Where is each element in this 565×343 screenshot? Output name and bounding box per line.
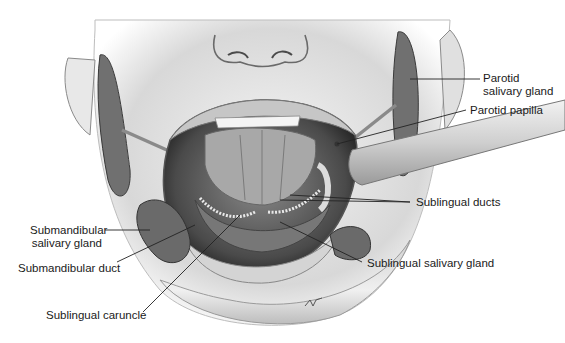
label-parotid-line2: salivary gland <box>483 85 553 98</box>
label-sublingual-ducts: Sublingual ducts <box>416 196 500 209</box>
label-parotid-papilla: Parotid papilla <box>470 104 543 117</box>
anatomy-illustration <box>0 0 565 343</box>
label-parotid-salivary-gland: Parotid salivary gland <box>483 72 553 98</box>
label-sublingual-salivary-gland: Sublingual salivary gland <box>367 257 494 270</box>
label-submandibular-duct: Submandibular duct <box>18 262 120 275</box>
label-submandibular-salivary-gland: Submandibular salivary gland <box>30 224 102 250</box>
label-submandibular-line2: salivary gland <box>30 237 102 250</box>
label-submandibular-line1: Submandibular <box>30 224 102 237</box>
right-ear <box>440 30 464 130</box>
label-parotid-line1: Parotid <box>483 72 553 85</box>
left-ear <box>65 58 95 135</box>
submandibular-gland-right <box>330 227 371 260</box>
label-sublingual-caruncle: Sublingual caruncle <box>46 309 146 322</box>
